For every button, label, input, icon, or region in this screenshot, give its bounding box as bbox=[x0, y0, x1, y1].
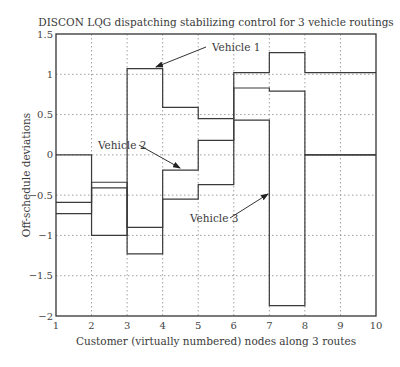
x-tick-label: 9 bbox=[337, 320, 343, 331]
annotation-vehicle-1: Vehicle 1 bbox=[211, 41, 260, 53]
y-axis-label: Off-schedule deviations bbox=[20, 113, 32, 237]
x-tick-label: 6 bbox=[231, 320, 237, 331]
x-tick-label: 8 bbox=[302, 320, 308, 331]
grid-lines bbox=[56, 34, 376, 316]
y-tick-labels: 1.510.50−0.5−1−1.5−2 bbox=[29, 29, 53, 322]
x-tick-label: 7 bbox=[266, 320, 272, 331]
x-tick-label: 3 bbox=[124, 320, 130, 331]
annotation-vehicle-3: Vehicle 3 bbox=[189, 212, 238, 224]
arrow-vehicle-2 bbox=[139, 145, 180, 168]
y-tick-label: 0.5 bbox=[37, 109, 53, 120]
plot-frame bbox=[56, 34, 376, 316]
y-tick-label: −2 bbox=[38, 311, 53, 322]
y-tick-label: −0.5 bbox=[29, 190, 53, 201]
arrow-vehicle-3 bbox=[230, 194, 268, 218]
y-tick-label: 0 bbox=[47, 149, 53, 160]
step-chart: DISCON LQG dispatching stabilizing contr… bbox=[0, 0, 400, 367]
x-tick-label: 1 bbox=[53, 320, 59, 331]
x-axis-label: Customer (virtually numbered) nodes alon… bbox=[76, 335, 356, 347]
x-tick-label: 2 bbox=[88, 320, 94, 331]
series-vehicle-2 bbox=[56, 88, 376, 227]
data-series bbox=[56, 53, 376, 306]
x-tick-label: 5 bbox=[195, 320, 201, 331]
annotations: Vehicle 1 Vehicle 2 Vehicle 3 bbox=[97, 41, 260, 224]
y-tick-label: 1.5 bbox=[37, 29, 53, 40]
y-tick-label: 1 bbox=[47, 69, 53, 80]
arrow-vehicle-1 bbox=[156, 47, 206, 67]
y-tick-label: −1.5 bbox=[29, 270, 53, 281]
x-tick-label: 4 bbox=[159, 320, 165, 331]
chart-title: DISCON LQG dispatching stabilizing contr… bbox=[38, 16, 394, 28]
y-tick-label: −1 bbox=[38, 230, 53, 241]
x-tick-label: 10 bbox=[370, 320, 383, 331]
x-tick-labels: 12345678910 bbox=[53, 320, 383, 331]
